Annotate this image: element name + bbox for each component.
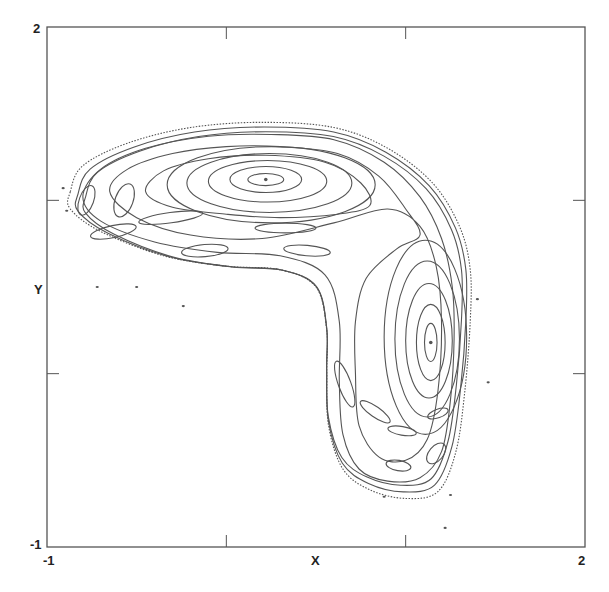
elliptic-center <box>429 341 433 345</box>
scatter-point <box>444 527 447 529</box>
island-orbit <box>283 243 330 257</box>
scatter-point <box>449 494 452 496</box>
right-vortex-ring <box>395 261 460 417</box>
scatter-point <box>182 305 185 307</box>
x-max-label: 2 <box>578 554 585 567</box>
orbit-curves <box>68 122 472 498</box>
scatter-point <box>476 298 479 300</box>
island-orbit <box>74 183 98 217</box>
elliptic-center <box>264 178 268 182</box>
scatter-point <box>383 496 386 498</box>
x-axis-label: X <box>311 554 320 567</box>
island-orbit <box>330 359 358 409</box>
x-min-label: -1 <box>43 554 55 567</box>
outer-boundary-orbit <box>68 122 472 498</box>
y-axis-label: Y <box>34 283 43 296</box>
scatter-point <box>65 210 68 212</box>
band-orbit <box>83 134 454 482</box>
island-orbit <box>426 406 449 422</box>
scatter-point <box>62 187 65 189</box>
chart-canvas <box>0 0 609 592</box>
scatter-point <box>135 286 138 288</box>
band-orbit <box>145 155 371 218</box>
island-orbit <box>385 458 412 473</box>
island-orbit <box>358 397 393 426</box>
nested-band-orbit <box>75 127 467 492</box>
scatter-point <box>487 381 490 383</box>
band-orbit <box>110 146 442 462</box>
scatter-point <box>96 286 99 288</box>
island-orbit <box>387 424 417 438</box>
island-orbit <box>255 223 316 233</box>
y-max-label: 2 <box>33 22 40 35</box>
y-min-label: -1 <box>30 538 42 551</box>
